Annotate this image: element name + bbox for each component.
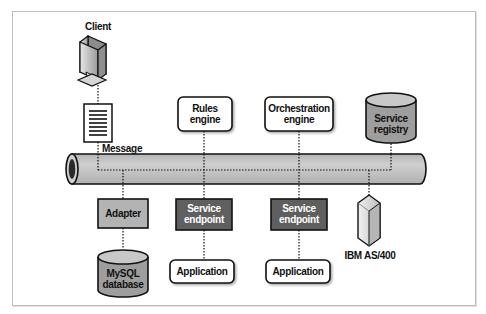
message-label: Message (102, 143, 162, 154)
esb-diagram (0, 0, 486, 314)
server-tower-icon (358, 195, 380, 246)
client-label: Client (78, 21, 118, 32)
application-2-label: Application (266, 266, 330, 277)
adapter-label: Adapter (98, 208, 148, 219)
ibm-as400-label: IBM AS/400 (340, 250, 400, 261)
monitor-icon (78, 36, 106, 86)
service-endpoint-2-label-2: endpoint (271, 214, 327, 225)
orchestration-engine-label-2: engine (263, 114, 335, 125)
service-registry-label-2: registry (366, 124, 416, 135)
rules-engine-label-2: engine (178, 114, 232, 125)
orchestration-engine-label-1: Orchestration (263, 103, 335, 114)
mysql-label-1: MySQL (98, 268, 148, 279)
service-endpoint-2-label-1: Service (271, 203, 327, 214)
document-icon (84, 104, 112, 142)
service-registry-label-1: Service (366, 113, 416, 124)
message-bus (66, 154, 426, 184)
service-endpoint-1-label-2: endpoint (176, 214, 232, 225)
application-1-label: Application (170, 266, 234, 277)
mysql-label-2: database (98, 279, 148, 290)
rules-engine-label-1: Rules (178, 103, 232, 114)
service-endpoint-1-label-1: Service (176, 203, 232, 214)
